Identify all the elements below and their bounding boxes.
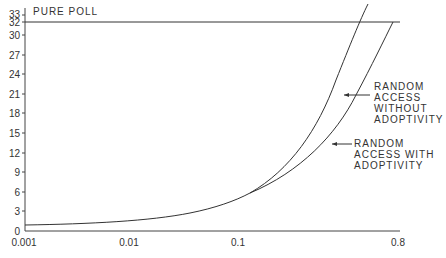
y-tick-24: 24 [9,69,21,80]
curve-without-adoptivity [250,4,368,193]
label-without-adoptivity: RANDOM ACCESS WITHOUT ADOPTIVITY [374,81,443,125]
arrow-with [332,142,352,146]
y-tick-0: 0 [14,226,20,237]
x-tick-0.8: 0.8 [391,237,405,248]
y-tick-12: 12 [9,148,21,159]
label-with-adoptivity: RANDOM ACCESS WITH ADOPTIVITY [354,138,434,171]
svg-text:ADOPTIVITY: ADOPTIVITY [374,114,443,125]
svg-text:ADOPTIVITY: ADOPTIVITY [354,160,423,171]
svg-text:RANDOM: RANDOM [354,138,404,149]
y-tick-27: 27 [9,50,21,61]
svg-text:ACCESS WITH: ACCESS WITH [354,149,434,160]
x-tick-0.001: 0.001 [11,237,36,248]
y-tick-21: 21 [9,89,21,100]
x-tick-labels: 0.001 0.01 0.1 0.8 [11,237,405,248]
x-tick-0.1: 0.1 [231,237,245,248]
curve-shared [25,193,250,225]
pure-poll-label: PURE POLL [33,6,98,17]
svg-text:ACCESS: ACCESS [374,92,421,103]
y-tick-30: 30 [9,30,21,41]
y-tick-3: 3 [14,206,20,217]
y-tick-15: 15 [9,128,21,139]
y-tick-9: 9 [14,167,20,178]
y-tick-6: 6 [14,187,20,198]
y-tick-32: 32 [9,17,21,28]
chart: 33 32 30 27 24 21 18 15 12 9 6 3 0 0.001… [0,0,446,258]
svg-text:WITHOUT: WITHOUT [374,103,428,114]
y-tick-18: 18 [9,108,21,119]
x-tick-0.01: 0.01 [119,237,139,248]
y-tick-labels: 33 32 30 27 24 21 18 15 12 9 6 3 0 [9,9,21,237]
svg-text:RANDOM: RANDOM [374,81,424,92]
